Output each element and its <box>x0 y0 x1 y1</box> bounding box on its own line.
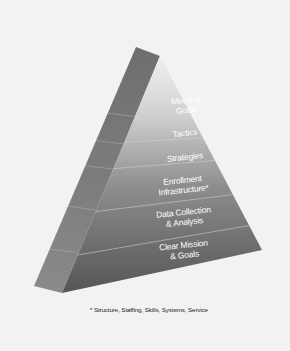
pyramid-graphic <box>0 0 290 351</box>
footnote: * Structure, Staffing, Skills, Systems, … <box>90 306 208 313</box>
pyramid-diagram: Meeting Goals Tactics Strategies Enrollm… <box>0 0 290 351</box>
